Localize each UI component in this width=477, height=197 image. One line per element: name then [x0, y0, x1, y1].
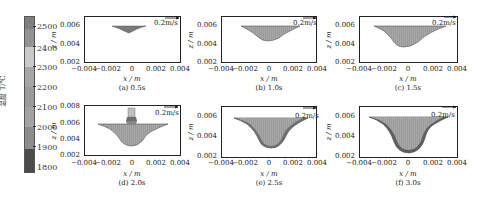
melt-pool-shape	[0, 0, 477, 197]
x-axis-label: x / m	[388, 170, 428, 178]
panel-caption: (f) 3.0s	[378, 179, 438, 187]
x-tick-label: 0.004	[437, 160, 477, 167]
y-axis-label: z / m	[325, 123, 333, 140]
y-tick-label: 0.006	[325, 113, 355, 120]
velocity-reference: 0.2m/s	[431, 111, 455, 119]
